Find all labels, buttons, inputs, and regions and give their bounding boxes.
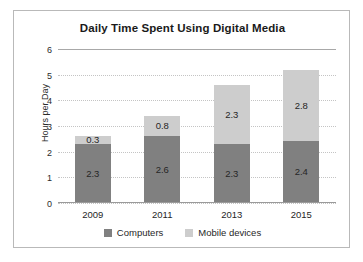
x-axis-line — [58, 202, 336, 203]
bar-segment-2013-computers[interactable]: 2.3 — [214, 144, 250, 203]
bar-value-label: 2.8 — [295, 101, 308, 111]
legend-swatch-icon-computers — [104, 229, 112, 237]
bar-group-2013[interactable]: 2.32.32013 — [214, 85, 250, 203]
bar-value-label: 0.8 — [156, 121, 169, 131]
bar-group-2015[interactable]: 2.42.82015 — [283, 70, 319, 203]
bar-segment-2009-computers[interactable]: 2.3 — [75, 144, 111, 203]
x-tick-label-2009: 2009 — [82, 209, 103, 220]
legend-swatch-icon-mobile-devices — [185, 229, 193, 237]
chart-legend: ComputersMobile devices — [14, 227, 351, 238]
gridline-0: 0 — [58, 203, 336, 204]
bar-group-2009[interactable]: 2.30.32009 — [75, 136, 111, 203]
bar-value-label: 2.6 — [156, 165, 169, 175]
legend-label-mobile-devices: Mobile devices — [198, 227, 261, 238]
bar-value-label: 2.4 — [295, 167, 308, 177]
y-tick-label-2: 2 — [47, 148, 52, 158]
x-tick-label-2013: 2013 — [221, 209, 242, 220]
bar-segment-2011-computers[interactable]: 2.6 — [144, 136, 180, 203]
x-tick-label-2015: 2015 — [291, 209, 312, 220]
legend-item-mobile-devices[interactable]: Mobile devices — [185, 227, 261, 238]
chart-title: Daily Time Spent Using Digital Media — [14, 22, 351, 34]
y-tick-label-0: 0 — [47, 199, 52, 209]
bar-segment-2015-computers[interactable]: 2.4 — [283, 141, 319, 203]
bar-segment-2011-mobile-devices[interactable]: 0.8 — [144, 116, 180, 137]
bar-value-label: 0.3 — [86, 135, 99, 145]
bar-value-label: 2.3 — [225, 169, 238, 179]
x-tick-label-2011: 2011 — [152, 209, 172, 220]
bar-segment-2015-mobile-devices[interactable]: 2.8 — [283, 70, 319, 142]
legend-item-computers[interactable]: Computers — [104, 227, 163, 238]
gridline-6: 6 — [58, 49, 336, 50]
legend-label-computers: Computers — [117, 227, 163, 238]
bar-value-label: 2.3 — [86, 169, 99, 179]
y-tick-label-3: 3 — [47, 122, 52, 132]
chart-frame: Daily Time Spent Using Digital Media Hou… — [13, 10, 350, 248]
y-tick-label-5: 5 — [47, 71, 52, 81]
plot-area: 0123456 2.30.320092.60.820112.32.320132.… — [58, 49, 336, 203]
bar-segment-2013-mobile-devices[interactable]: 2.3 — [214, 85, 250, 144]
y-tick-label-1: 1 — [47, 173, 52, 183]
y-axis-title: Hours per Day — [40, 73, 50, 153]
y-tick-label-4: 4 — [47, 96, 52, 106]
bar-value-label: 2.3 — [225, 110, 238, 120]
bar-group-2011[interactable]: 2.60.82011 — [144, 116, 180, 203]
y-tick-label-6: 6 — [47, 45, 52, 55]
bar-segment-2009-mobile-devices[interactable]: 0.3 — [75, 136, 111, 144]
